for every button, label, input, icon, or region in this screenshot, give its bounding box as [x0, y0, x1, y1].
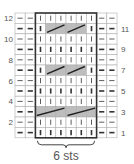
- row-number: 6: [9, 77, 14, 86]
- row-number: 8: [9, 56, 14, 65]
- repeat-bracket: [37, 141, 94, 148]
- left-row-numbers: 12108642: [4, 14, 13, 127]
- row-number: 1: [121, 129, 126, 138]
- right-row-numbers: 1197531: [121, 25, 130, 138]
- row-number: 10: [4, 35, 13, 44]
- row-number: 11: [121, 25, 130, 34]
- chart-grid: [15, 13, 117, 138]
- row-number: 2: [9, 118, 14, 127]
- row-number: 9: [121, 45, 126, 54]
- row-number: 5: [121, 87, 126, 96]
- row-number: 7: [121, 66, 126, 75]
- knitting-chart: 12108642 1197531 6 sts: [0, 0, 134, 164]
- row-number: 12: [4, 14, 13, 23]
- row-number: 3: [121, 108, 126, 117]
- row-number: 4: [9, 97, 14, 106]
- repeat-label: 6 sts: [53, 149, 78, 163]
